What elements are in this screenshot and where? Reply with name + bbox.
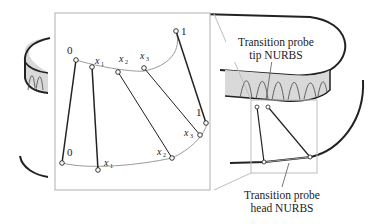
small-isolines xyxy=(255,105,312,164)
top-label-1: 1 xyxy=(181,25,187,37)
tip-callout-line1: Transition probe xyxy=(226,36,326,49)
head-callout-line1: Transition probe xyxy=(232,189,332,202)
top-label-x1-sub: 1 xyxy=(101,61,104,67)
head-nurbs-callout: Transition probe head NURBS xyxy=(232,189,332,215)
top-label-x1: x xyxy=(94,55,100,66)
top-label-x3-sub: 3 xyxy=(146,56,149,62)
bottom-label-1: 1 xyxy=(196,106,202,118)
bottom-label-x3: x xyxy=(183,127,189,138)
bottom-label-x1-sub: 1 xyxy=(110,163,113,169)
top-label-x3: x xyxy=(139,50,145,61)
tip-callout-line2: tip NURBS xyxy=(226,49,326,62)
head-callout-line2: head NURBS xyxy=(232,202,332,215)
bottom-label-x3-sub: 3 xyxy=(190,133,193,139)
bottom-label-x1: x xyxy=(103,157,109,168)
bottom-label-x2: x xyxy=(156,146,162,157)
inset-panel: 0 x 1 x 2 x 3 1 0 x 1 x 2 x 3 1 xyxy=(55,13,210,190)
top-label-0: 0 xyxy=(67,44,73,56)
head-leader-line xyxy=(282,163,289,187)
top-label-x2-sub: 2 xyxy=(125,59,128,65)
tip-nurbs-callout: Transition probe tip NURBS xyxy=(226,36,326,62)
top-label-x2: x xyxy=(118,53,124,64)
bottom-label-x2-sub: 2 xyxy=(163,152,166,158)
bottom-label-0: 0 xyxy=(67,146,73,158)
